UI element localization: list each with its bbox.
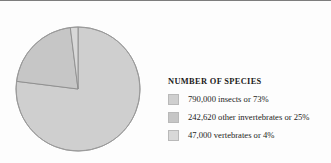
legend-swatch-insects: [168, 94, 179, 105]
legend-swatch-other-invertebrates: [168, 112, 179, 123]
legend-title: NUMBER OF SPECIES: [168, 77, 328, 86]
legend-label-vertebrates: 47,000 vertebrates or 4%: [188, 130, 274, 140]
pie-svg: [15, 22, 141, 154]
pie-chart-figure: NUMBER OF SPECIES 790,000 insects or 73%…: [0, 0, 331, 163]
legend-label-insects: 790,000 insects or 73%: [188, 94, 269, 104]
legend-item-insects[interactable]: 790,000 insects or 73%: [168, 93, 328, 105]
legend: NUMBER OF SPECIES 790,000 insects or 73%…: [168, 77, 328, 147]
legend-swatch-vertebrates: [168, 130, 179, 141]
pie-chart-graphic: [15, 22, 141, 154]
legend-item-vertebrates[interactable]: 47,000 vertebrates or 4%: [168, 129, 328, 141]
pie-slice-other-invertebrates[interactable]: [17, 28, 79, 90]
legend-label-other-invertebrates: 242,620 other invertebrates or 25%: [188, 112, 309, 122]
legend-item-other-invertebrates[interactable]: 242,620 other invertebrates or 25%: [168, 111, 328, 123]
